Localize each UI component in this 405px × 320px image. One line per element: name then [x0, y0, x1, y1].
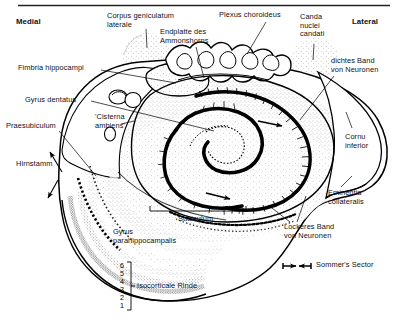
anatomy-illustration — [0, 0, 405, 320]
label-sommers-sector: Sommer's Sector — [316, 261, 374, 270]
hippocampus-figure: Medial Lateral Corpus geniculatum latera… — [0, 0, 405, 320]
label-plexus-choroideus: Plexus choroideus — [219, 11, 281, 20]
label-eminentia-collateralis: Eminentia collateralis — [328, 189, 364, 206]
label-cornu-inferior: Cornu inferior — [345, 133, 368, 150]
label-gyrus-dentatus: Gyrus dentatus — [25, 96, 76, 105]
label-lockeres-band-von-neuronen: Lockeres Band von Neuronen — [284, 223, 334, 240]
label-gyrus-parahippocampalis: Gyrus parahippocampalis — [113, 228, 176, 245]
label-dichtes-band-von-neuronen: dichtes Band von Neuronen — [331, 57, 378, 74]
orientation-label-lateral: Lateral — [352, 18, 378, 27]
label-subiculum: Subiculum — [178, 215, 213, 224]
label-endplatte-des-ammonshorns: Endplatte des Ammonshorns — [160, 28, 208, 45]
sommers-sector-legend-marker — [283, 263, 311, 269]
label-praesubiculum: Praesubiculum — [6, 122, 56, 131]
label-canda-nuclei-candati: Canda nuclei candati — [300, 13, 324, 39]
orientation-label-medial: Medial — [16, 18, 41, 27]
label-isocorticale-rinde: Isocorticale Rinde — [137, 282, 197, 291]
cortical-layer-number-1: 1 — [120, 302, 124, 309]
label-hirnstamm: Hirnstamm — [16, 160, 52, 169]
label-fimbria-hippocampi: Fimbria hippocampi — [18, 64, 84, 73]
label-cisterna-ambiens: 'Cisterna ambiens' — [95, 113, 125, 130]
